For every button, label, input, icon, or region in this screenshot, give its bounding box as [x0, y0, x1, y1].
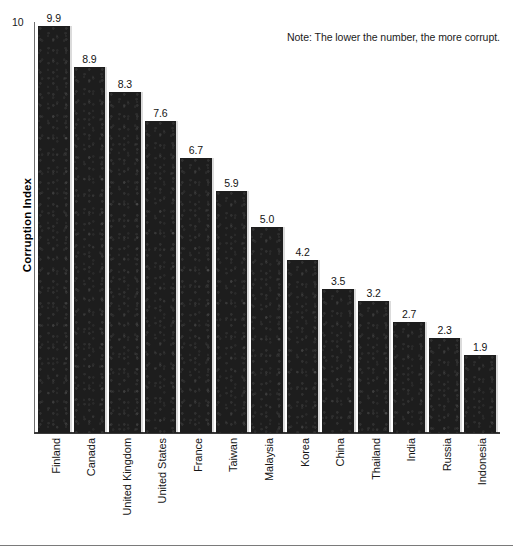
bar-group: 5.9	[216, 22, 252, 433]
bar-group: 3.5	[322, 22, 358, 433]
bar-value-label: 3.5	[322, 275, 354, 287]
x-axis-tick-label: United States	[156, 438, 168, 503]
x-axis-tick-label: Malaysia	[263, 438, 275, 481]
bar[interactable]	[393, 322, 425, 433]
x-axis-tick: Finland	[38, 434, 74, 544]
x-axis-tick-label: India	[405, 438, 417, 462]
bar-group: 5.0	[251, 22, 287, 433]
bar-group: 4.2	[287, 22, 323, 433]
x-axis-tick: United Kingdom	[109, 434, 145, 544]
bar-group: 2.7	[393, 22, 429, 433]
bar-value-label: 1.9	[464, 341, 496, 353]
y-axis-line	[34, 22, 35, 433]
bar[interactable]	[109, 92, 141, 433]
y-axis-title: Corruption Index	[21, 135, 33, 315]
bar[interactable]	[251, 227, 283, 433]
bar-value-label: 6.7	[180, 144, 212, 156]
bar-value-label: 8.3	[109, 78, 141, 90]
bar-value-label: 4.2	[287, 246, 319, 258]
x-axis-tick: Malaysia	[251, 434, 287, 544]
x-axis-tick-label: China	[334, 438, 346, 467]
y-axis-tick-label: 10	[12, 16, 24, 28]
page-bottom-rule	[0, 545, 513, 546]
bar[interactable]	[216, 191, 248, 433]
bar[interactable]	[180, 158, 212, 433]
x-axis-tick: United States	[145, 434, 181, 544]
x-axis-tick-label: Korea	[299, 438, 311, 467]
bar-value-label: 2.3	[429, 324, 461, 336]
x-axis-tick-label: Russia	[441, 438, 453, 471]
x-axis-tick-label: Taiwan	[227, 438, 239, 472]
x-axis-tick-label: France	[192, 438, 204, 472]
x-axis-tick-label: United Kingdom	[121, 438, 133, 516]
bar-group: 8.9	[74, 22, 110, 433]
bar[interactable]	[322, 289, 354, 433]
bar[interactable]	[74, 67, 106, 433]
x-axis-tick: Korea	[287, 434, 323, 544]
x-axis-tick: Russia	[429, 434, 465, 544]
x-axis-tick-label: Indonesia	[476, 438, 488, 485]
x-axis-labels: FinlandCanadaUnited KingdomUnited States…	[38, 434, 500, 544]
bar[interactable]	[287, 260, 319, 433]
x-axis-tick: Indonesia	[464, 434, 500, 544]
bar[interactable]	[38, 26, 70, 433]
x-axis-tick: France	[180, 434, 216, 544]
bar-group: 3.2	[358, 22, 394, 433]
bar-group: 6.7	[180, 22, 216, 433]
x-axis-tick-label: Canada	[85, 438, 97, 476]
bar-group: 9.9	[38, 22, 74, 433]
bar-value-label: 2.7	[393, 308, 425, 320]
bar-value-label: 7.6	[145, 107, 177, 119]
bar-group: 8.3	[109, 22, 145, 433]
bar-group: 7.6	[145, 22, 181, 433]
x-axis-tick: Canada	[74, 434, 110, 544]
bar-value-label: 3.2	[358, 287, 390, 299]
chart-page: Note: The lower the number, the more cor…	[0, 0, 513, 558]
bar-value-label: 8.9	[74, 53, 106, 65]
x-axis-tick-label: Thailand	[370, 438, 382, 480]
bar[interactable]	[429, 338, 461, 433]
bar[interactable]	[358, 301, 390, 433]
x-axis-tick: Taiwan	[216, 434, 252, 544]
x-axis-tick: Thailand	[358, 434, 394, 544]
bar-group: 2.3	[429, 22, 465, 433]
bar-value-label: 5.9	[216, 177, 248, 189]
bar-group: 1.9	[464, 22, 500, 433]
bar[interactable]	[464, 355, 496, 433]
x-axis-tick: India	[393, 434, 429, 544]
x-axis-tick: China	[322, 434, 358, 544]
plot-area: 9.98.98.37.66.75.95.04.23.53.22.72.31.9	[38, 22, 500, 433]
bar-value-label: 5.0	[251, 213, 283, 225]
bar-value-label: 9.9	[38, 12, 70, 24]
x-axis-tick-label: Finland	[50, 438, 62, 474]
bar[interactable]	[145, 121, 177, 433]
